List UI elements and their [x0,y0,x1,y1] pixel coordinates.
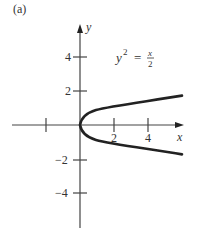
equation-lhs-exponent: 2 [123,47,128,57]
y-tick-label-neg2: −2 [55,153,68,167]
y-tick-label-2: 2 [65,84,71,98]
parabola-figure: (a) y x 4 2 −2 −4 2 4 y 2 = x 2 [0,0,197,234]
x-tick-label-4: 4 [145,131,151,145]
equation-lhs-base: y [114,50,122,65]
equation-equals: = [134,50,141,65]
y-axis-label: y [85,20,92,34]
equation-label: y 2 = x 2 [114,47,154,69]
y-tick-label-4: 4 [65,50,71,64]
panel-label: (a) [13,2,26,16]
x-axis-label: x [176,130,183,144]
equation-denominator: 2 [148,59,153,69]
x-axis-arrow-icon [175,122,184,128]
y-axis-arrow-icon [77,24,83,33]
y-tick-label-neg4: −4 [55,186,68,200]
equation-numerator: x [147,48,152,58]
